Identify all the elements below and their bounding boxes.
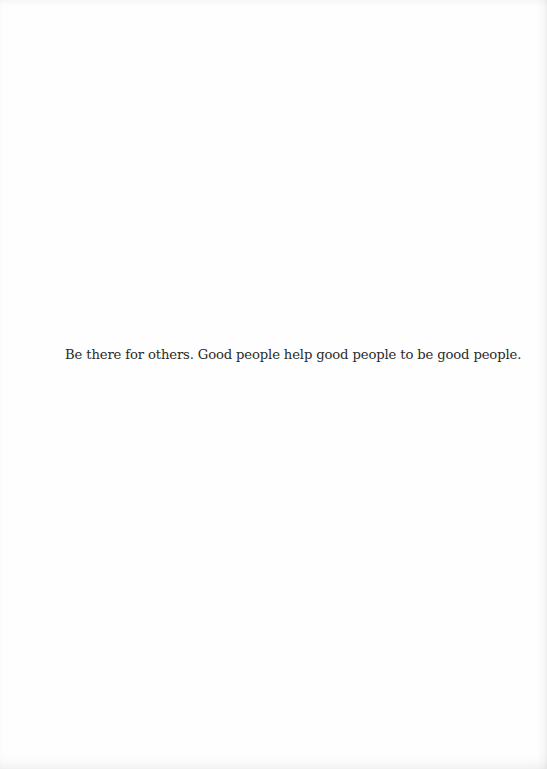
document-page: Be there for others. Good people help go… bbox=[0, 0, 547, 769]
quote-text: Be there for others. Good people help go… bbox=[65, 346, 521, 364]
